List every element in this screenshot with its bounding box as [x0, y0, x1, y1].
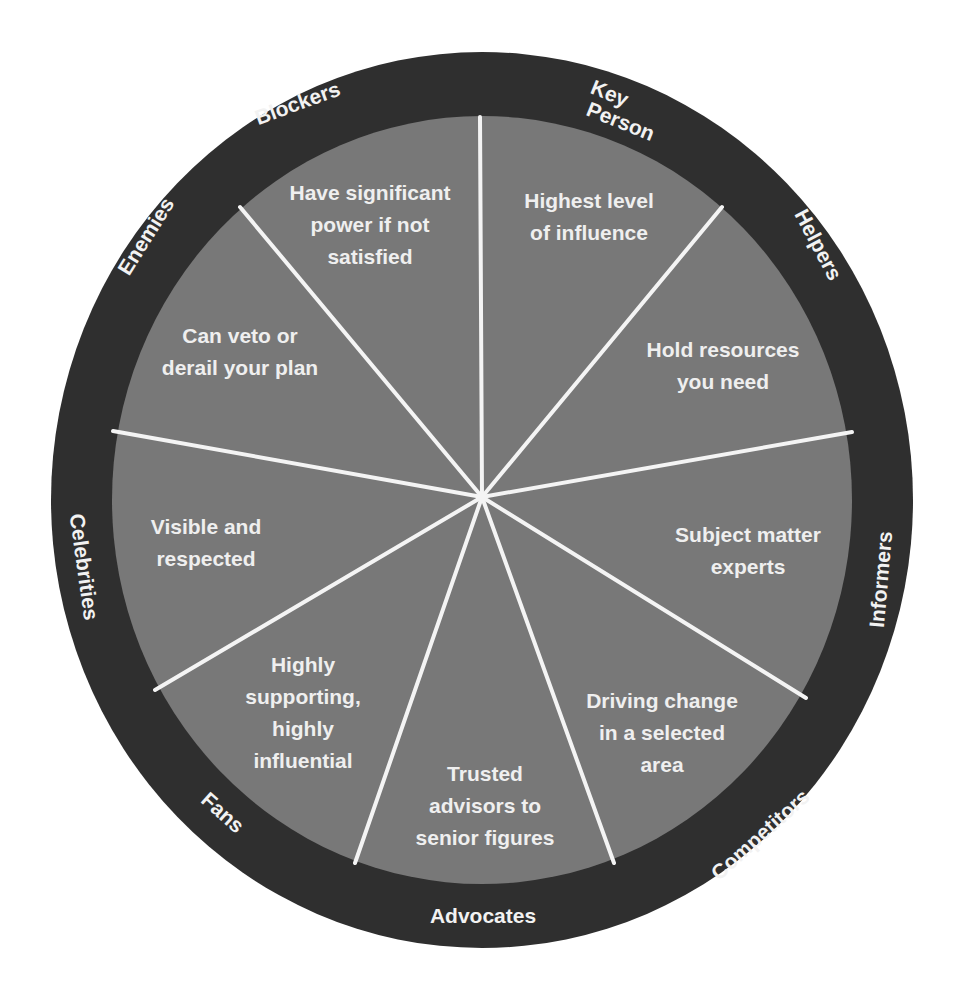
description-informers: Subject matter experts [675, 519, 821, 583]
description-helpers: Hold resources you need [647, 334, 800, 398]
description-key-person: Highest level of influence [524, 185, 654, 249]
role-label-advocates: Advocates [430, 904, 536, 927]
description-fans: Highly supporting, highly influential [245, 649, 360, 777]
description-blockers: Have significant power if not satisfied [289, 177, 450, 273]
description-advocates: Trusted advisors to senior figures [416, 758, 555, 854]
spoke-0 [480, 117, 482, 497]
description-enemies: Can veto or derail your plan [162, 320, 318, 384]
description-competitors: Driving change in a selected area [586, 685, 738, 781]
description-celebrities: Visible and respected [151, 511, 262, 575]
